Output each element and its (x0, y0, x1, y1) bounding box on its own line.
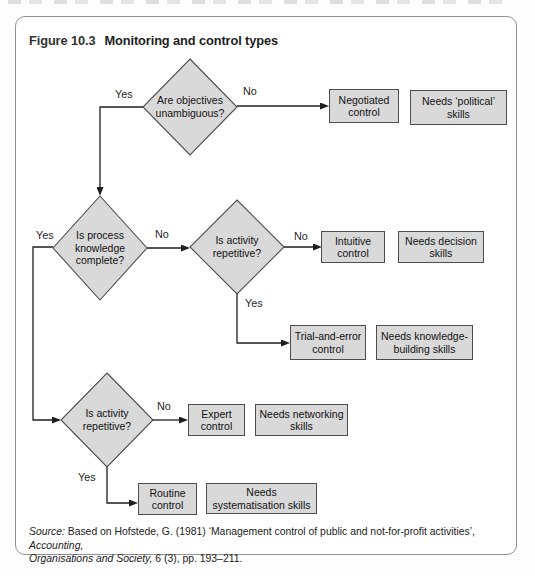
box-needs-systematisation-skills: Needs systematisation skills (206, 483, 317, 514)
source-label: Source: (29, 526, 65, 537)
box-needs-decision-skills: Needs decision skills (398, 231, 484, 263)
decision-text-objectives: Are objectives unambiguous? (140, 94, 240, 119)
source-text-2: 6 (3), pp. 193–211. (152, 553, 242, 564)
source-text-1: Based on Hofstede, G. (1981) ‘Management… (65, 526, 475, 537)
source-journal-line2: Organisations and Society, (29, 553, 152, 564)
label-no-activity-mid: No (294, 230, 308, 242)
box-needs-networking-skills: Needs networking skills (255, 404, 348, 436)
box-intuitive-control: Intuitive control (321, 231, 385, 263)
label-yes-activity-mid: Yes (245, 297, 263, 309)
label-no-process-knowledge: No (155, 228, 169, 240)
label-no-objectives: No (243, 85, 257, 97)
source-journal-line1: Accounting, (29, 540, 83, 551)
source-citation: Source: Based on Hofstede, G. (1981) ‘Ma… (29, 525, 521, 566)
box-needs-political-skills: Needs ‘political’ skills (410, 90, 507, 125)
connector-yes-to-process-knowledge (100, 107, 143, 192)
box-trial-and-error-control: Trial-and-error control (290, 325, 366, 360)
label-yes-objectives: Yes (115, 88, 133, 100)
label-yes-activity-bottom: Yes (78, 471, 96, 483)
box-negotiated-control: Negotiated control (329, 89, 399, 123)
decision-text-activity-repetitive-bottom: Is activity repetitive? (62, 407, 152, 432)
book-page: Figure 10.3 Monitoring and control types… (0, 0, 535, 576)
connector-yes-to-routine (107, 467, 134, 503)
label-no-activity-bottom: No (157, 400, 171, 412)
box-needs-knowledge-building-skills: Needs knowledge- building skills (376, 325, 473, 360)
connector-yes-to-activity-repetitive-bottom (33, 247, 57, 420)
label-yes-process-knowledge: Yes (36, 229, 54, 241)
decision-text-process-knowledge: Is process knowledge complete? (55, 229, 145, 267)
box-routine-control: Routine control (138, 483, 197, 515)
box-expert-control: Expert control (188, 404, 245, 436)
decision-text-activity-repetitive-mid: Is activity repetitive? (192, 234, 282, 259)
